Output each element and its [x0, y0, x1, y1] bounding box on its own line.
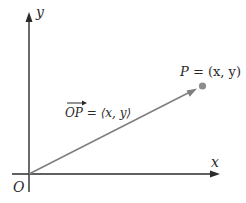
point-equals: = — [193, 64, 204, 79]
point-name: P — [180, 64, 189, 79]
y-axis-label: y — [36, 5, 44, 19]
x-axis-label: x — [211, 155, 219, 169]
point-coords-paren: (x, y) — [208, 64, 241, 79]
vector-equals: = — [87, 106, 97, 120]
vector-label: OP = ⟨x, y⟩ — [65, 107, 131, 119]
vector-arrowhead-icon — [187, 89, 198, 97]
overarrow-icon — [67, 100, 87, 106]
vector-name-with-arrow: OP — [65, 107, 83, 119]
vector-op — [29, 92, 191, 175]
point-p-dot-icon — [199, 82, 206, 89]
diagram-canvas — [0, 0, 246, 203]
y-axis-arrowhead-icon — [26, 12, 33, 22]
vector-name: OP — [65, 106, 83, 120]
origin-label: O — [13, 180, 24, 194]
vector-diagram: y x O P = (x, y) OP = ⟨x, y⟩ — [0, 0, 246, 203]
point-p-label: P = (x, y) — [180, 65, 241, 78]
vector-components: ⟨x, y⟩ — [101, 106, 132, 120]
x-axis-arrowhead-icon — [210, 171, 220, 178]
